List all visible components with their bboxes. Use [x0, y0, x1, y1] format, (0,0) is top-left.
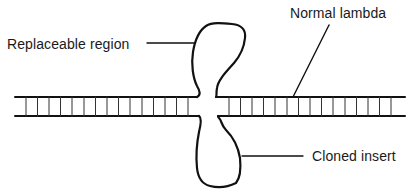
normal-lambda-leader [293, 25, 329, 97]
dna-right-segment [216, 97, 405, 116]
replaceable-region-label: Replaceable region [7, 37, 129, 51]
dna-left-segment [15, 97, 199, 116]
replaceable-region-loop [192, 23, 245, 97]
normal-lambda-label: Normal lambda [290, 6, 386, 20]
diagram-graphics [0, 0, 409, 195]
lambda-vector-diagram: Replaceable region Normal lambda Cloned … [0, 0, 409, 195]
cloned-insert-loop [197, 116, 241, 187]
cloned-insert-label: Cloned insert [312, 149, 396, 163]
